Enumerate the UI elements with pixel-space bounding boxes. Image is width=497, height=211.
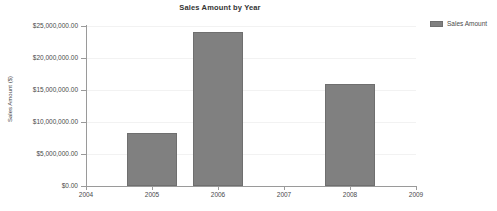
y-tick-label: $25,000,000.00 (33, 23, 78, 30)
x-axis-line (86, 186, 416, 187)
x-tick-label: 2008 (330, 192, 370, 199)
x-tick-label: 2009 (396, 192, 436, 199)
y-tick-label: $5,000,000.00 (36, 151, 78, 158)
x-tick-label: 2007 (264, 192, 304, 199)
legend-swatch (430, 21, 443, 27)
y-tick-mark (81, 122, 86, 123)
x-tick-label: 2005 (132, 192, 172, 199)
sales-amount-bar-chart: Sales Amount by Year Sales Amount ($) $0… (0, 0, 497, 211)
y-tick-mark (81, 58, 86, 59)
y-tick-label: $10,000,000.00 (33, 119, 78, 126)
bar (325, 84, 375, 186)
gridline (86, 58, 416, 59)
y-tick-mark (81, 90, 86, 91)
y-axis-line (86, 25, 87, 187)
y-tick-label: $15,000,000.00 (33, 87, 78, 94)
chart-legend: Sales Amount (430, 21, 487, 28)
x-tick-mark (218, 186, 219, 190)
gridline (86, 26, 416, 27)
y-tick-mark (81, 26, 86, 27)
x-tick-mark (86, 186, 87, 190)
bar (193, 32, 243, 186)
x-tick-mark (152, 186, 153, 190)
chart-title: Sales Amount by Year (0, 3, 440, 12)
x-tick-mark (284, 186, 285, 190)
x-tick-mark (350, 186, 351, 190)
plot-area (86, 26, 416, 186)
legend-label: Sales Amount (447, 21, 487, 28)
y-tick-label: $20,000,000.00 (33, 55, 78, 62)
y-tick-label: $0.00 (62, 183, 78, 190)
x-tick-label: 2006 (198, 192, 238, 199)
y-axis-title: Sales Amount ($) (7, 59, 13, 139)
x-tick-label: 2004 (66, 192, 106, 199)
bar (127, 133, 177, 186)
x-tick-mark (416, 186, 417, 190)
y-tick-mark (81, 154, 86, 155)
